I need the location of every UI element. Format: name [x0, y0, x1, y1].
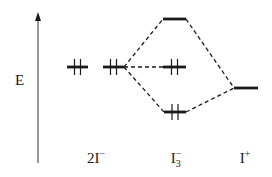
correlation-line	[186, 88, 234, 112]
species-charge: −	[99, 148, 105, 159]
mo-energy-diagram	[0, 0, 272, 177]
energy-level-2i-a	[67, 59, 88, 75]
correlation-line	[186, 19, 234, 88]
species-label-i-plus: I+	[240, 151, 251, 166]
correlation-lines	[124, 19, 234, 112]
correlation-line	[124, 19, 163, 67]
energy-level-2i-b	[103, 59, 124, 75]
species-charge: −	[176, 148, 182, 159]
energy-axis	[35, 12, 41, 163]
species-base: 2I	[87, 150, 100, 166]
species-label-i3-minus: I3−	[171, 151, 182, 166]
energy-levels	[67, 19, 258, 120]
arrow-up-icon	[35, 12, 41, 21]
energy-level-i3-bonding	[164, 104, 186, 120]
energy-level-i3-nonbonding	[163, 59, 186, 75]
energy-axis-label: E	[15, 73, 24, 88]
species-label-2i-minus: 2I−	[87, 151, 105, 166]
correlation-line	[124, 67, 164, 112]
species-subscript: 3	[176, 158, 181, 169]
species-charge: +	[245, 148, 251, 159]
